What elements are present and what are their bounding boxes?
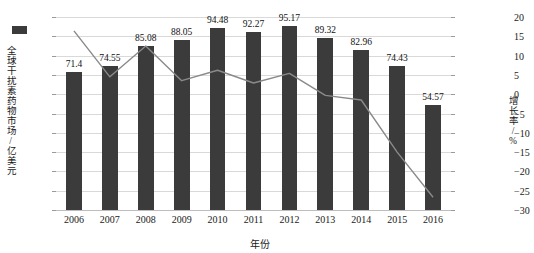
bar [389,66,405,210]
y-axis-left-tickmark [52,56,56,57]
y-axis-right-tick-label: −15 [514,147,534,158]
x-axis-tick-label: 2010 [208,214,228,225]
y-axis-left-tickmark [52,171,56,172]
y-axis-right-tickmark [451,17,455,18]
bar-value-label: 92.27 [243,19,264,29]
y-axis-right-tick-label: 20 [514,12,534,23]
legend-swatch-bar-series [12,26,27,34]
y-axis-left-title: 全球干扰素药物市场/亿美元 [5,46,15,226]
y-axis-left-tickmark [52,94,56,95]
y-axis-right-tickmark [451,152,455,153]
x-axis-tick-label: 2007 [100,214,120,225]
y-axis-right-tickmark [451,114,455,115]
y-axis-left-tickmark [52,210,56,211]
bar-value-label: 54.57 [422,92,443,102]
bar-value-label: 95.17 [279,13,300,23]
y-axis-right-title: 增长率/% [508,96,518,146]
x-axis-tick-label: 2013 [315,214,335,225]
y-axis-right-tickmark [451,94,455,95]
bar-value-label: 71.4 [66,59,83,69]
bar [353,50,369,210]
bar-value-label: 85.08 [135,33,156,43]
y-axis-right-tick-label: −5 [514,108,534,119]
y-axis-left-tickmark [52,114,56,115]
y-axis-right-tick-label: −25 [514,185,534,196]
gridline [56,17,451,18]
y-axis-right-tick-label: −20 [514,166,534,177]
bar-value-label: 88.05 [171,27,192,37]
y-axis-right-tickmark [451,36,455,37]
bar [282,26,298,210]
bar [174,40,190,210]
y-axis-right-tick-label: −10 [514,127,534,138]
bar [66,72,82,210]
bar [102,66,118,210]
x-axis-tick-label: 2016 [423,214,443,225]
y-axis-right-tick-label: 5 [514,69,534,80]
y-axis-right-tickmark [451,56,455,57]
x-axis-tick-label: 2012 [279,214,299,225]
bar [425,105,441,210]
y-axis-left-tickmark [52,133,56,134]
bar-value-label: 74.43 [386,53,407,63]
x-axis-tick-label: 2008 [136,214,156,225]
y-axis-right-tickmark [451,75,455,76]
y-axis-left-tickmark [52,36,56,37]
y-axis-left-tickmark [52,152,56,153]
bar-value-label: 94.48 [207,15,228,25]
y-axis-right-tick-label: −30 [514,205,534,216]
bar-value-label: 74.55 [99,53,120,63]
y-axis-right-tick-label: 10 [514,50,534,61]
bar-value-label: 89.32 [315,25,336,35]
x-axis-tick-label: 2014 [351,214,371,225]
x-axis-tick-label: 2015 [387,214,407,225]
x-axis-tick-label: 2006 [64,214,84,225]
y-axis-right-tickmark [451,191,455,192]
y-axis-right-tickmark [451,210,455,211]
bar [246,32,262,210]
y-axis-right-tick-label: 0 [514,89,534,100]
y-axis-left-tickmark [52,17,56,18]
bar [210,28,226,210]
y-axis-left-tickmark [52,75,56,76]
x-axis-title: 年份 [0,236,520,251]
plot-area: 1009080706050403020100 20151050−5−10−15−… [56,17,451,210]
y-axis-right-tick-label: 15 [514,31,534,42]
x-axis-tick-label: 2009 [172,214,192,225]
bar [317,38,333,210]
gridline [56,210,451,211]
x-axis-tick-label: 2011 [244,214,264,225]
y-axis-left-tickmark [52,191,56,192]
bar-value-label: 82.96 [351,37,372,47]
bar [138,46,154,210]
y-axis-right-tickmark [451,133,455,134]
y-axis-right-tickmark [451,171,455,172]
